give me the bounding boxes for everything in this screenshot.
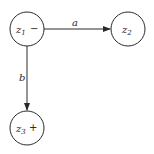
transition-a-label: a (72, 17, 78, 28)
final-marker: + (29, 122, 37, 133)
state-diagram: a b z1 − z2 z3 + (0, 0, 154, 154)
transition-b-label: b (19, 72, 25, 83)
state-z3: z3 + (10, 111, 44, 145)
state-z1: z1 − (10, 12, 44, 46)
transition-a: a (44, 17, 110, 29)
state-z2: z2 (111, 12, 145, 46)
start-marker: − (30, 23, 38, 34)
transition-b: b (19, 46, 27, 110)
